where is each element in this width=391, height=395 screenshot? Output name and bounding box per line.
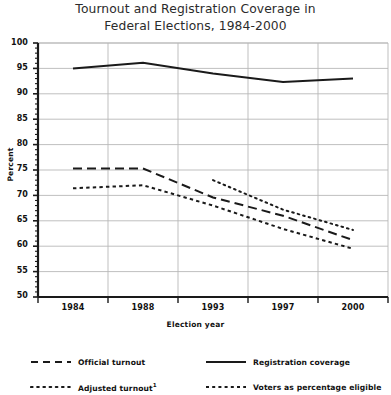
footnote-marker: 1 [153, 382, 157, 388]
legend-item-adjusted-turnout: Adjusted turnout1 [30, 379, 157, 395]
legend-label-adjusted-turnout-text: Adjusted turnout [78, 383, 153, 392]
legend-label-voters-as-percentage-eligible: Voters as percentage eligible [253, 383, 382, 392]
legend-swatch-dashed [30, 357, 72, 367]
legend-swatch-solid [205, 357, 247, 367]
legend-label-adjusted-turnout: Adjusted turnout1 [78, 382, 157, 393]
series-line-registration-coverage [73, 63, 353, 82]
legend-swatch-dotted [30, 382, 72, 392]
chart-figure: Tournout and Registration Coverage in Fe… [0, 0, 391, 395]
legend-swatch-short-dash [205, 382, 247, 392]
legend-item-voters-as-percentage-eligible: Voters as percentage eligible [205, 379, 382, 395]
legend-label-registration-coverage: Registration coverage [253, 358, 350, 367]
chart-legend: Official turnout Registration coverage A… [0, 348, 391, 395]
legend-label-official-turnout: Official turnout [78, 358, 145, 367]
gridlines [38, 43, 388, 297]
legend-item-registration-coverage: Registration coverage [205, 354, 350, 370]
plot-area [0, 0, 391, 340]
series-line-adjusted-turnout [213, 180, 353, 230]
legend-item-official-turnout: Official turnout [30, 354, 145, 370]
